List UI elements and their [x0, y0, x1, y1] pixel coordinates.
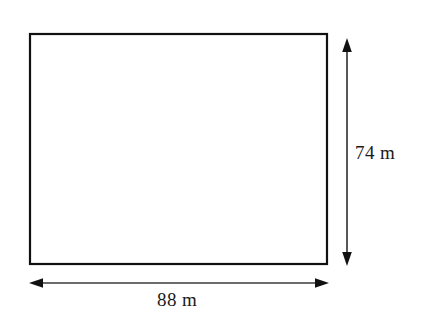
geometry-figure-canvas: 74 m 88 m	[0, 0, 422, 318]
height-arrowhead-top	[342, 38, 352, 52]
width-dimension-arrow	[29, 278, 329, 288]
width-dimension-label: 88 m	[157, 290, 197, 309]
width-arrowhead-right	[315, 278, 329, 288]
height-arrowhead-bottom	[342, 252, 352, 266]
rectangle-outline	[30, 34, 327, 264]
height-dimension-arrow	[342, 38, 352, 266]
width-arrowhead-left	[29, 278, 43, 288]
height-dimension-label: 74 m	[355, 143, 395, 162]
